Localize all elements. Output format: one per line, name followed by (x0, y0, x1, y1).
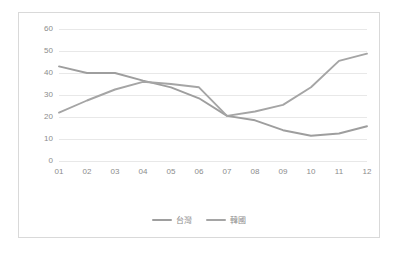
y-tick-label-30: 30 (31, 91, 53, 99)
legend-swatch-2 (206, 219, 226, 221)
x-tick-label-09: 09 (271, 168, 295, 176)
legend-entry-1[interactable]: 台灣 (152, 216, 192, 225)
series-lines (59, 29, 367, 161)
y-tick-label-50: 50 (31, 47, 53, 55)
legend-entry-2[interactable]: 韓國 (206, 216, 246, 225)
chart-legend: 台灣韓國 (19, 213, 379, 227)
gridline-0 (59, 161, 367, 162)
legend-label-2: 韓國 (230, 216, 246, 225)
x-tick-label-02: 02 (75, 168, 99, 176)
x-tick-label-05: 05 (159, 168, 183, 176)
y-tick-label-40: 40 (31, 69, 53, 77)
legend-swatch-1 (152, 219, 172, 221)
x-tick-label-01: 01 (47, 168, 71, 176)
plot-area: 6050403020100 010203040506070809101112 (59, 29, 367, 161)
x-tick-label-12: 12 (355, 168, 379, 176)
x-tick-label-10: 10 (299, 168, 323, 176)
x-tick-label-08: 08 (243, 168, 267, 176)
y-tick-label-20: 20 (31, 113, 53, 121)
chart-container: 6050403020100 010203040506070809101112 台… (18, 12, 380, 238)
x-tick-label-06: 06 (187, 168, 211, 176)
x-tick-label-04: 04 (131, 168, 155, 176)
legend-label-1: 台灣 (176, 216, 192, 225)
y-tick-label-10: 10 (31, 135, 53, 143)
y-tick-label-60: 60 (31, 25, 53, 33)
x-tick-label-03: 03 (103, 168, 127, 176)
y-tick-label-0: 0 (31, 157, 53, 165)
x-tick-label-11: 11 (327, 168, 351, 176)
x-tick-label-07: 07 (215, 168, 239, 176)
